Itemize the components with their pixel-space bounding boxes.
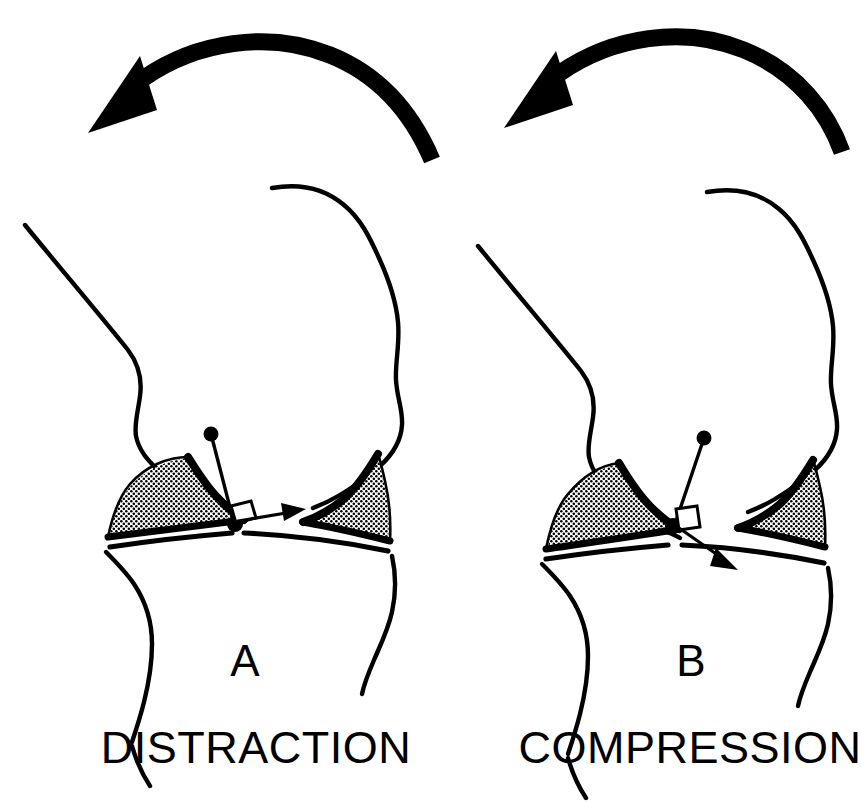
panel-letter-a: A bbox=[230, 636, 260, 685]
panel-caption-compression: COMPRESSION bbox=[518, 722, 861, 773]
panel-letter-b: B bbox=[676, 636, 705, 685]
anatomical-diagram: A DISTRACTION bbox=[0, 0, 861, 802]
canvas-background bbox=[0, 0, 861, 802]
figure-root: A DISTRACTION bbox=[0, 0, 861, 802]
perpendicular-marker-b bbox=[676, 506, 700, 530]
panel-caption-distraction: DISTRACTION bbox=[101, 722, 412, 773]
